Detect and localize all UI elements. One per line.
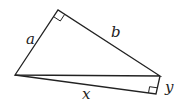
label-b: b: [111, 23, 121, 41]
upper-triangle: [15, 10, 160, 76]
label-y: y: [164, 78, 174, 96]
label-a: a: [26, 30, 35, 48]
triangle-diagram: a b x y: [0, 0, 180, 105]
label-x: x: [82, 85, 91, 103]
diagram-canvas: a b x y: [0, 0, 180, 105]
